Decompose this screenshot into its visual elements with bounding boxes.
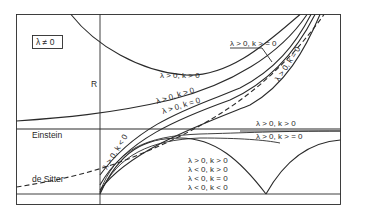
osc-label-4: λ < 0, k < 0 xyxy=(188,183,228,192)
osc-label-3: λ < 0, k = 0 xyxy=(188,174,228,183)
curve-oscillating-2 xyxy=(266,140,341,194)
r-axis-label: R xyxy=(91,79,97,89)
friedmann-diagram: λ ≠ 0 R Einstein de Sitter λ > 0, k > 0 … xyxy=(0,0,366,220)
top-arc-label: λ > 0, k > 0 xyxy=(160,71,200,80)
de-sitter-label: de Sitter xyxy=(32,174,64,184)
einstein-above-label: λ > 0, k > 0 xyxy=(256,119,296,128)
einstein-label: Einstein xyxy=(32,130,63,140)
leader-line xyxy=(262,48,272,62)
leader-label: λ > 0, k > = 0 xyxy=(230,39,277,48)
osc-label-1: λ > 0, k > 0 xyxy=(188,156,228,165)
einstein-below-label: λ > 0, k > = 0 xyxy=(256,132,303,141)
curve-loitering xyxy=(17,15,308,122)
parameter-label: λ ≠ 0 xyxy=(36,37,55,47)
osc-label-2: λ < 0, k > 0 xyxy=(188,165,228,174)
